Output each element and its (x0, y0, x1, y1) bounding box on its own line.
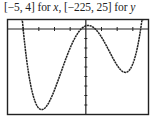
function-curve (21, 20, 144, 110)
graph-screen (0, 0, 158, 122)
